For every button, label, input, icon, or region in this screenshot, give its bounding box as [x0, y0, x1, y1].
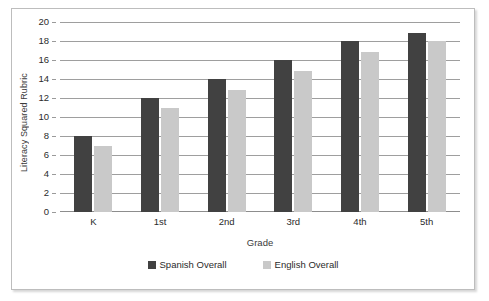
- x-axis-tick-labels: K1st2nd3rd4th5th: [60, 216, 460, 232]
- x-axis-title: Grade: [60, 237, 460, 248]
- y-tick-mark: [52, 193, 56, 194]
- chart-legend: Spanish OverallEnglish Overall: [12, 259, 474, 270]
- bar-spanish[interactable]: [208, 79, 226, 212]
- bar-spanish[interactable]: [74, 136, 92, 212]
- y-tick-mark: [52, 41, 56, 42]
- bar-english[interactable]: [228, 90, 246, 212]
- bar-group: [208, 22, 246, 212]
- legend-swatch-icon: [148, 261, 156, 269]
- chart-plot-wrapper: Literacy Squared Rubric 0246810121416182…: [12, 9, 474, 289]
- bar-series-container: [60, 22, 460, 212]
- chart-frame: Literacy Squared Rubric 0246810121416182…: [11, 8, 475, 290]
- bar-english[interactable]: [94, 146, 112, 213]
- x-tick-label: 5th: [407, 216, 447, 232]
- x-tick-label: 1st: [140, 216, 180, 232]
- x-tick-label: 4th: [340, 216, 380, 232]
- x-tick-label: K: [73, 216, 113, 232]
- y-tick-mark: [52, 155, 56, 156]
- bar-english[interactable]: [361, 52, 379, 212]
- bar-group: [341, 22, 379, 212]
- y-tick-mark: [52, 212, 56, 213]
- bar-english[interactable]: [294, 71, 312, 212]
- legend-label: Spanish Overall: [160, 259, 227, 270]
- legend-item[interactable]: Spanish Overall: [148, 259, 227, 270]
- plot-area: [60, 22, 460, 212]
- legend-swatch-icon: [263, 261, 271, 269]
- bar-english[interactable]: [428, 41, 446, 212]
- y-tick-mark: [52, 174, 56, 175]
- y-tick-mark: [52, 136, 56, 137]
- bar-group: [274, 22, 312, 212]
- bar-english[interactable]: [161, 108, 179, 213]
- bar-spanish[interactable]: [274, 60, 292, 212]
- bar-spanish[interactable]: [141, 98, 159, 212]
- y-tick-mark: [52, 117, 56, 118]
- legend-item[interactable]: English Overall: [263, 259, 339, 270]
- legend-label: English Overall: [275, 259, 339, 270]
- y-tick-mark: [52, 22, 56, 23]
- y-tick-mark: [52, 60, 56, 61]
- bar-spanish[interactable]: [408, 33, 426, 212]
- bar-group: [74, 22, 112, 212]
- y-tick-mark: [52, 98, 56, 99]
- y-axis-tick-labels: 02468101214161820: [32, 22, 56, 212]
- x-tick-label: 3rd: [273, 216, 313, 232]
- bar-spanish[interactable]: [341, 41, 359, 212]
- bar-group: [141, 22, 179, 212]
- x-tick-label: 2nd: [207, 216, 247, 232]
- y-tick-mark: [52, 79, 56, 80]
- bar-group: [408, 22, 446, 212]
